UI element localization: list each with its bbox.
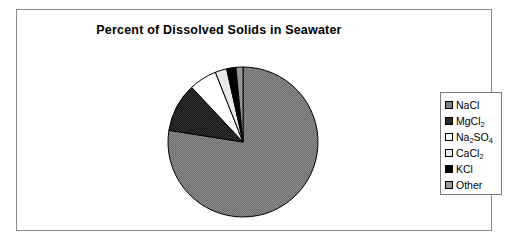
legend-swatch-cacl2 [445,149,453,157]
chart-legend: NaCl MgCl2 Na2SO4 CaCl2 KCl Other [440,92,502,195]
legend-label-mgcl2: MgCl2 [456,116,485,127]
legend-item-kcl[interactable]: KCl [445,161,501,177]
legend-label-cacl2: CaCl2 [456,148,484,159]
legend-item-mgcl2[interactable]: MgCl2 [445,113,501,129]
legend-label-na2so4: Na2SO4 [456,132,493,143]
legend-swatch-mgcl2 [445,117,453,125]
legend-label-other: Other [456,180,482,191]
legend-item-other[interactable]: Other [445,177,501,193]
legend-label-kcl: KCl [456,164,473,175]
legend-item-nacl[interactable]: NaCl [445,97,501,113]
chart-frame: Percent of Dissolved Solids in Seawater [16,9,492,231]
legend-item-na2so4[interactable]: Na2SO4 [445,129,501,145]
pie-chart [37,50,407,225]
pie-plot-area [37,50,407,225]
legend-label-nacl: NaCl [456,100,479,111]
chart-title: Percent of Dissolved Solids in Seawater [17,23,421,37]
legend-item-cacl2[interactable]: CaCl2 [445,145,501,161]
legend-swatch-kcl [445,165,453,173]
legend-swatch-na2so4 [445,133,453,141]
pie-slices [168,67,318,217]
legend-swatch-nacl [445,101,453,109]
chart-screenshot: Percent of Dissolved Solids in Seawater [0,0,514,243]
legend-swatch-other [445,181,453,189]
